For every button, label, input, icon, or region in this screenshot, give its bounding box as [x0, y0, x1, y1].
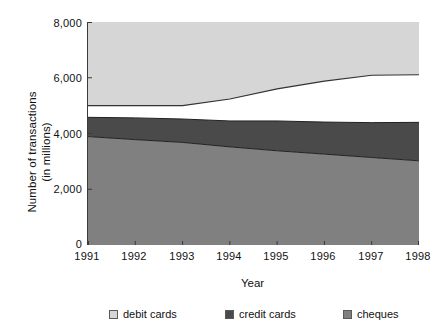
legend-swatch-cheques: [343, 310, 352, 319]
stacked-area-chart: Number of transactions (in millions) 8,0…: [0, 0, 439, 335]
x-tick-1994: 1994: [206, 250, 252, 262]
x-tick-1997: 1997: [348, 250, 394, 262]
x-tick-1993: 1993: [159, 250, 205, 262]
x-axis-tick-labels: 1991 1992 1993 1994 1995 1996 1997 1998: [87, 250, 418, 268]
x-tick-1995: 1995: [253, 250, 299, 262]
legend-item-cheques[interactable]: cheques: [343, 308, 399, 320]
area-debit-cards: [88, 22, 419, 106]
x-tick-1992: 1992: [111, 250, 157, 262]
series-layers: [88, 22, 419, 245]
y-tick-6000: 6,000: [36, 72, 82, 84]
y-tick-0: 0: [36, 238, 82, 250]
y-tick-2000: 2,000: [36, 183, 82, 195]
y-tick-4000: 4,000: [36, 128, 82, 140]
legend-swatch-debit-cards: [109, 310, 118, 319]
x-axis-title: Year: [87, 277, 418, 289]
x-tick-1991: 1991: [64, 250, 110, 262]
plot-area: [87, 22, 418, 245]
legend-label-credit-cards: credit cards: [239, 308, 296, 320]
chart-legend: debit cards credit cards cheques: [87, 308, 418, 326]
y-axis-tick-labels: 8,000 6,000 4,000 2,000 0: [30, 0, 82, 335]
legend-label-debit-cards: debit cards: [123, 308, 177, 320]
legend-swatch-credit-cards: [225, 310, 234, 319]
legend-label-cheques: cheques: [357, 308, 399, 320]
legend-item-credit-cards[interactable]: credit cards: [225, 308, 296, 320]
y-tick-8000: 8,000: [36, 17, 82, 29]
x-tick-1996: 1996: [300, 250, 346, 262]
plot-svg: [88, 22, 419, 245]
legend-item-debit-cards[interactable]: debit cards: [109, 308, 177, 320]
x-tick-1998: 1998: [395, 250, 439, 262]
